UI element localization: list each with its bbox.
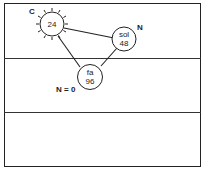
edge-c-fa <box>58 36 80 67</box>
edge-c-sol <box>64 28 114 38</box>
fa-node-label: N = 0 <box>56 86 75 94</box>
edge-sol-fa <box>101 48 117 66</box>
sol-node-label: N <box>137 24 143 32</box>
fa-node-value: 96 <box>78 77 102 86</box>
c-node-label: C <box>29 8 35 16</box>
sol-node-value: 48 <box>112 39 136 48</box>
fa-node-name: fa <box>78 68 102 77</box>
sol-node-name: sol <box>112 30 136 39</box>
c-node-value: 24 <box>40 20 64 29</box>
network-graph <box>0 0 207 172</box>
